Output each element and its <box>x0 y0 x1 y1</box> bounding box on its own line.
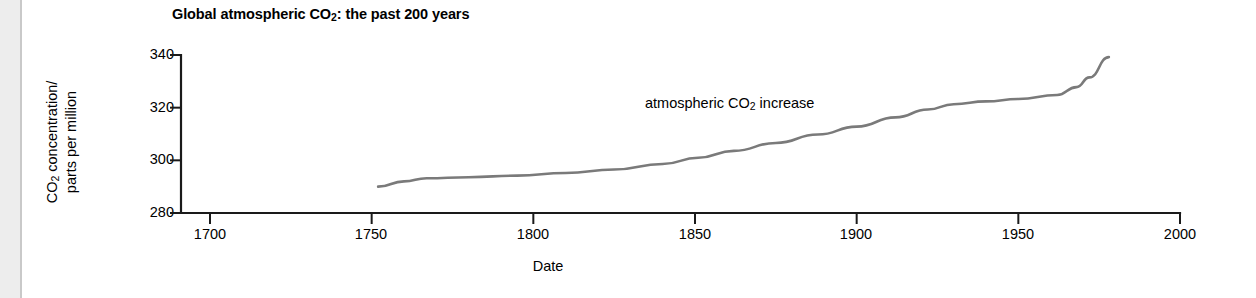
axis-lines <box>181 55 1180 213</box>
figure-root: Global atmospheric CO2: the past 200 yea… <box>0 0 1256 298</box>
data-series-line <box>378 57 1109 187</box>
plot-area <box>0 0 1256 298</box>
axis-ticks <box>171 55 1180 223</box>
